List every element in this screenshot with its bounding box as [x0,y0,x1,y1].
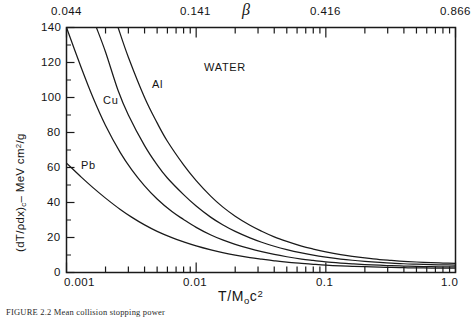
y-tick-label: 140 [41,21,61,33]
y-axis-title-text: (dT/ρdx)c– MeV cm2/g [14,133,26,252]
curve-pb [67,163,456,268]
curve-label-al: Al [152,78,163,90]
x-axis-title-text: T/Moc2 [218,288,263,304]
figure-caption: FIGURE 2.2 Mean collision stopping power [6,307,165,317]
top-tick-label: 0.416 [310,5,341,17]
x-tick-label: 0.1 [316,276,333,288]
y-tick-label: 40 [47,196,61,208]
x-axis-title: T/Moc2 [218,288,263,306]
curve-label-water: WATER [204,61,246,73]
curve-al [96,28,455,266]
top-tick-label: 0.044 [51,5,82,17]
curve-water [118,28,455,264]
y-tick-label: 100 [41,91,61,103]
left-axis-ticks [67,28,75,273]
top-tick-label: 0.141 [180,5,211,17]
data-curves [67,28,456,269]
plot-border [67,28,456,273]
curve-label-pb: Pb [81,159,96,171]
y-tick-label: 20 [47,231,61,243]
plot-frame [67,28,456,273]
x-tick-label: 1.0 [441,276,458,288]
top-tick-label: 0.866 [440,5,471,17]
y-axis-title: (dT/ρdx)c– MeV cm2/g [14,133,28,252]
curve-paths [67,28,456,269]
x-tick-label: 0.001 [64,276,95,288]
y-tick-label: 0 [54,266,61,278]
y-tick-label: 60 [47,161,61,173]
x-tick-label: 0.01 [183,276,207,288]
beta-axis-title: β [242,1,250,19]
curve-label-cu: Cu [103,94,118,106]
y-tick-label: 80 [47,126,61,138]
top-axis-ticks [67,28,456,38]
y-tick-label: 120 [41,56,61,68]
